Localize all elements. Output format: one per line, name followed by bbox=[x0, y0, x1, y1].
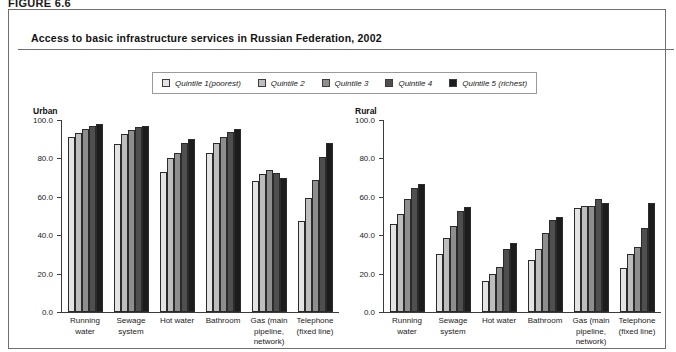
bar bbox=[457, 211, 464, 312]
legend-item: Quintile 1(poorest) bbox=[162, 79, 241, 88]
bar bbox=[160, 172, 167, 312]
bar bbox=[390, 224, 397, 312]
bar bbox=[188, 139, 195, 312]
bar bbox=[142, 126, 149, 312]
bar bbox=[128, 130, 135, 312]
bar-group bbox=[568, 120, 614, 312]
y-axis-tick-label: 0.0 bbox=[42, 308, 53, 317]
x-axis-category-label: Gas (main pipeline, network) bbox=[246, 316, 292, 348]
bar bbox=[581, 206, 588, 312]
y-axis-tick-label: 20.0 bbox=[37, 269, 53, 278]
bar-group bbox=[246, 120, 292, 312]
bar bbox=[206, 153, 213, 312]
bar bbox=[326, 143, 333, 312]
y-axis-tick-label: 60.0 bbox=[359, 192, 375, 201]
panel-urban-title: Urban bbox=[33, 106, 339, 116]
bar bbox=[298, 221, 305, 312]
bar bbox=[68, 137, 75, 312]
bar bbox=[234, 129, 241, 312]
y-axis-tick-label: 0.0 bbox=[364, 308, 375, 317]
bar bbox=[135, 127, 142, 312]
bar bbox=[319, 157, 326, 312]
x-axis-line bbox=[383, 312, 661, 313]
bar-group bbox=[614, 120, 660, 312]
bars-area bbox=[384, 120, 660, 312]
bar bbox=[266, 170, 273, 312]
x-axis-line bbox=[61, 312, 339, 313]
chart-title: Access to basic infrastructure services … bbox=[31, 32, 382, 44]
bar bbox=[75, 133, 82, 312]
bar bbox=[602, 203, 609, 312]
bar bbox=[620, 268, 627, 312]
x-axis-category-label: Running water bbox=[384, 316, 430, 348]
legend-item: Quintile 2 bbox=[258, 79, 305, 88]
bar-group bbox=[522, 120, 568, 312]
x-axis-category-label: Telephone (fixed line) bbox=[614, 316, 660, 348]
x-axis-labels: Running waterSewage systemHot waterBathr… bbox=[384, 316, 660, 348]
bar bbox=[404, 199, 411, 312]
bar bbox=[574, 208, 581, 312]
bar bbox=[482, 281, 489, 312]
legend-swatch-icon bbox=[385, 79, 393, 87]
bar bbox=[443, 238, 450, 312]
bar bbox=[89, 126, 96, 312]
x-axis-category-label: Sewage system bbox=[108, 316, 154, 348]
legend-item-label: Quintile 3 bbox=[335, 79, 369, 88]
x-axis-category-label: Hot water bbox=[154, 316, 200, 348]
x-axis-category-label: Running water bbox=[62, 316, 108, 348]
panel-rural: Rural 0.020.040.060.080.0100.0Running wa… bbox=[349, 106, 661, 352]
bar bbox=[648, 203, 655, 312]
y-axis: 0.020.040.060.080.0100.0 bbox=[27, 120, 57, 312]
bar-group bbox=[384, 120, 430, 312]
x-axis-category-label: Hot water bbox=[476, 316, 522, 348]
legend-item-label: Quintile 2 bbox=[271, 79, 305, 88]
y-axis-tick-label: 80.0 bbox=[359, 154, 375, 163]
bar bbox=[542, 233, 549, 312]
y-axis-tick-label: 80.0 bbox=[37, 154, 53, 163]
y-axis-tick-label: 100.0 bbox=[355, 116, 375, 125]
bar bbox=[305, 198, 312, 312]
y-axis-tick-label: 60.0 bbox=[37, 192, 53, 201]
bar-group bbox=[108, 120, 154, 312]
panel-urban: Urban 0.020.040.060.080.0100.0Running wa… bbox=[27, 106, 339, 352]
bar bbox=[273, 173, 280, 312]
bar bbox=[510, 243, 517, 312]
panel-rural-title: Rural bbox=[355, 106, 661, 116]
bar bbox=[549, 220, 556, 312]
bar bbox=[121, 134, 128, 312]
y-axis-tick-label: 40.0 bbox=[359, 231, 375, 240]
bar bbox=[174, 153, 181, 312]
figure-number-label: FIGURE 6.6 bbox=[8, 0, 71, 9]
plot-rural: 0.020.040.060.080.0100.0Running waterSew… bbox=[349, 120, 661, 352]
legend-item-label: Quintile 1(poorest) bbox=[175, 79, 241, 88]
bar bbox=[450, 226, 457, 312]
bar bbox=[496, 267, 503, 312]
bar-group bbox=[200, 120, 246, 312]
bar-group bbox=[430, 120, 476, 312]
bar bbox=[528, 260, 535, 312]
title-divider bbox=[18, 49, 674, 50]
y-axis-tick-label: 20.0 bbox=[359, 269, 375, 278]
bar bbox=[556, 217, 563, 312]
bar bbox=[489, 274, 496, 312]
bar bbox=[634, 247, 641, 312]
legend-swatch-icon bbox=[449, 79, 457, 87]
bar bbox=[252, 181, 259, 312]
bar bbox=[167, 158, 174, 312]
bar bbox=[82, 129, 89, 312]
legend-item: Quintile 5 (richest) bbox=[449, 79, 527, 88]
bar-group bbox=[292, 120, 338, 312]
y-axis-tick-label: 100.0 bbox=[33, 116, 53, 125]
bar bbox=[464, 207, 471, 312]
x-axis-labels: Running waterSewage systemHot waterBathr… bbox=[62, 316, 338, 348]
y-axis: 0.020.040.060.080.0100.0 bbox=[349, 120, 379, 312]
x-axis-category-label: Bathroom bbox=[522, 316, 568, 348]
bar-group bbox=[154, 120, 200, 312]
bar bbox=[114, 144, 121, 312]
bar bbox=[535, 249, 542, 312]
bars-area bbox=[62, 120, 338, 312]
legend-swatch-icon bbox=[322, 79, 330, 87]
x-axis-category-label: Gas (main pipeline, network) bbox=[568, 316, 614, 348]
bar bbox=[181, 143, 188, 312]
bar bbox=[641, 228, 648, 312]
